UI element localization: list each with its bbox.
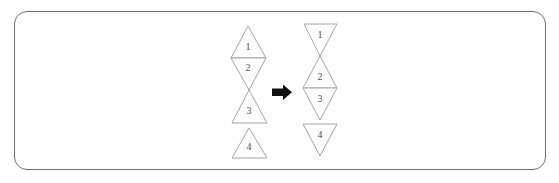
- triangle-4-folded-strip: 4: [303, 124, 337, 156]
- triangle-1-folded-strip: 1: [304, 24, 337, 56]
- triangle-1-unfolded-strip: 1: [231, 26, 266, 58]
- triangle-label: 3: [247, 105, 252, 116]
- triangle-label: 3: [318, 93, 323, 104]
- triangle-2-folded-strip: 2: [303, 56, 337, 88]
- triangle-label: 4: [247, 141, 252, 152]
- figure-root: 1234 1234: [0, 0, 559, 183]
- triangle-group-unfolded: 1234: [231, 26, 267, 158]
- triangle-label: 2: [246, 62, 251, 73]
- transform-arrow: [272, 85, 292, 101]
- triangle-label: 2: [318, 71, 323, 82]
- triangle-label: 1: [246, 41, 251, 52]
- triangle-4-unfolded-strip: 4: [232, 128, 267, 158]
- arrow-right-icon: [272, 85, 292, 101]
- triangle-3-folded-strip: 3: [303, 88, 337, 120]
- triangle-label: 1: [318, 29, 323, 40]
- triangle-2-unfolded-strip: 2: [231, 58, 266, 90]
- triangle-group-folded: 1234: [303, 24, 337, 156]
- diagram-canvas: 1234 1234: [0, 0, 559, 183]
- triangle-3-unfolded-strip: 3: [232, 90, 267, 123]
- triangle-label: 4: [318, 129, 323, 140]
